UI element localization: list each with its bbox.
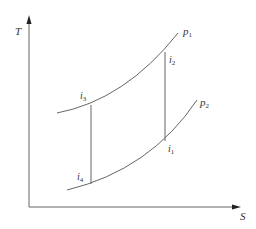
curve-label-p1: p1 bbox=[182, 25, 193, 39]
y-axis-arrow-icon bbox=[27, 15, 32, 24]
y-axis-label: T bbox=[15, 25, 22, 37]
ts-diagram: T S p1 p2 i3 i4 i2 i1 bbox=[0, 0, 256, 229]
point-label-i1: i1 bbox=[168, 143, 175, 156]
curve-label-p2: p2 bbox=[199, 96, 210, 110]
isobar-p2 bbox=[67, 100, 197, 190]
x-axis-label: S bbox=[240, 210, 246, 222]
isobar-p1 bbox=[57, 33, 178, 113]
point-label-i3: i3 bbox=[80, 90, 87, 103]
x-axis-arrow-icon bbox=[232, 205, 241, 210]
point-label-i2: i2 bbox=[169, 54, 176, 67]
point-label-i4: i4 bbox=[77, 171, 84, 184]
